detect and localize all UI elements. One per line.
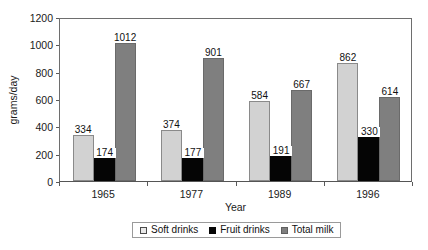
bar-value-label: 330 [358,127,380,137]
x-tick-mark [324,182,325,186]
bar-value-label: 667 [284,80,319,90]
x-tick-mark [59,182,60,186]
bar-fruit-drinks-1996 [358,136,379,181]
bar-total-milk-1989 [291,90,312,181]
x-tick-mark [236,182,237,186]
y-tick-label: 1000 [19,40,53,50]
chart-legend: Soft drinksFruit drinksTotal milk [132,222,341,238]
x-tick-label: 1977 [166,189,216,200]
bar-value-label: 584 [242,91,277,101]
y-tick-label: 800 [19,68,53,78]
legend-label: Fruit drinks [220,225,269,235]
bar-soft-drinks-1977 [161,130,182,181]
bar-value-label: 862 [330,53,365,63]
bar-total-milk-1965 [115,43,136,181]
x-tick-label: 1965 [78,189,128,200]
y-tick-label: 200 [19,150,53,160]
bar-soft-drinks-1996 [337,63,358,181]
bar-value-label: 614 [372,87,407,97]
bars-layer: 3341741012374177901584191667862330614 [60,19,411,181]
bar-total-milk-1977 [203,58,224,181]
bar-value-label: 374 [154,120,189,130]
plot-area: 3341741012374177901584191667862330614 [59,18,412,182]
bar-fruit-drinks-1977 [182,157,203,181]
x-tick-mark [412,182,413,186]
y-tick-label: 600 [19,95,53,105]
bar-chart: grams/day 120010008006004002000 33417410… [0,0,428,250]
bar-value-label: 177 [182,148,204,158]
bar-value-label: 174 [94,148,116,158]
bar-total-milk-1996 [379,97,400,181]
legend-swatch-icon [281,227,288,234]
x-tick-mark [147,182,148,186]
y-tick-label: 1200 [19,13,53,23]
x-axis-title: Year [59,201,412,213]
legend-item-soft-drinks: Soft drinks [140,225,198,235]
y-tick-label: 400 [19,122,53,132]
legend-swatch-icon [140,227,147,234]
y-axis-title: grams/day [7,60,19,140]
legend-swatch-icon [209,227,216,234]
legend-label: Total milk [292,225,334,235]
legend-item-fruit-drinks: Fruit drinks [209,225,269,235]
x-tick-label: 1996 [343,189,393,200]
legend-label: Soft drinks [151,225,198,235]
x-tick-label: 1989 [255,189,305,200]
bar-fruit-drinks-1989 [270,155,291,181]
bar-soft-drinks-1989 [249,101,270,181]
bar-soft-drinks-1965 [73,135,94,181]
bar-value-label: 191 [270,146,292,156]
bar-fruit-drinks-1965 [94,157,115,181]
y-tick-label: 0 [19,177,53,187]
bar-value-label: 901 [196,48,231,58]
legend-item-total-milk: Total milk [281,225,334,235]
bar-value-label: 1012 [108,33,143,43]
bar-value-label: 334 [66,125,101,135]
